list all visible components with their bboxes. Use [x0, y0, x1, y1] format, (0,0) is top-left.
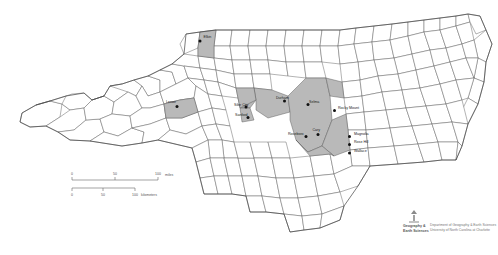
- map-container: ElkinLenoirSiler CitySanfordDurhamSelmaR…: [0, 0, 498, 255]
- city-dot-icon: [176, 105, 179, 108]
- north-carolina-county-map: ElkinLenoirSiler CitySanfordDurhamSelmaR…: [0, 0, 498, 255]
- county-polygon: [284, 46, 304, 62]
- county-polygon: [268, 142, 290, 158]
- county-polygon: [266, 30, 286, 46]
- county-polygon: [320, 30, 340, 46]
- county-polygon: [208, 140, 224, 158]
- county-polygon: [346, 112, 366, 130]
- county-polygon: [248, 46, 268, 60]
- county-polygon: [340, 62, 360, 82]
- city-label: Cary: [313, 128, 321, 132]
- city-dot-icon: [199, 40, 202, 43]
- county-polygon: [284, 30, 304, 46]
- scale-label-km-100: 100: [132, 193, 138, 197]
- city-dot-icon: [348, 143, 351, 146]
- scale-label-km-0: 0: [71, 193, 73, 197]
- county-polygon: [354, 26, 374, 44]
- scale-unit-kilometers: kilometers: [141, 193, 157, 197]
- county-polygon: [234, 74, 254, 88]
- city-label: Rocky Mount: [338, 106, 359, 110]
- county-polygon: [266, 46, 286, 62]
- county-polygon: [342, 80, 362, 98]
- county-polygon: [378, 74, 402, 92]
- university-logo-icon: [409, 210, 419, 223]
- county-polygon: [290, 156, 314, 178]
- credit-line-2: University of North Carolina at Charlott…: [430, 228, 490, 232]
- county-polygon: [302, 30, 322, 46]
- city-label: Roseboro: [288, 132, 304, 136]
- county-polygon: [230, 46, 250, 60]
- scale-label-km-50: 50: [101, 193, 105, 197]
- county-polygon: [338, 28, 356, 46]
- logo-line-2: Earth Sciences: [403, 229, 429, 233]
- county-polygon: [180, 32, 200, 54]
- county-polygon: [252, 74, 272, 90]
- county-polygon: [250, 60, 270, 74]
- county-polygon: [424, 18, 440, 32]
- county-polygon: [298, 196, 322, 216]
- county-polygon: [372, 24, 392, 42]
- city-label: Sanford: [235, 113, 248, 117]
- city-label: Elkin: [204, 35, 212, 39]
- city-label: Magnolia: [354, 132, 369, 136]
- county-polygon: [232, 60, 252, 74]
- city-dot-icon: [348, 152, 351, 155]
- county-polygon: [302, 46, 322, 62]
- scale-unit-miles: miles: [165, 173, 173, 177]
- highlighted-county-durham[interactable]: [254, 88, 290, 118]
- county-polygon: [214, 30, 232, 46]
- county-polygon: [304, 62, 326, 78]
- city-label: Durham: [276, 96, 289, 100]
- city-label: Lenoir: [166, 100, 177, 104]
- county-polygon: [268, 60, 288, 76]
- credit-line-1: Department of Geography & Earth Sciences: [430, 223, 496, 227]
- city-label: Wallace: [354, 149, 367, 153]
- county-polygon: [230, 30, 250, 46]
- county-polygon: [364, 110, 390, 130]
- scale-label-miles-100: 100: [155, 172, 161, 176]
- county-polygon: [366, 128, 394, 148]
- city-dot-icon: [348, 135, 351, 138]
- city-label: Rose Hill: [354, 140, 369, 144]
- credit-block: Geography & Earth Sciences Department of…: [403, 210, 496, 233]
- city-dot-icon: [317, 133, 320, 136]
- county-polygon: [248, 30, 268, 46]
- county-polygon: [382, 90, 406, 110]
- city-dot-icon: [333, 109, 336, 112]
- scale-label-miles-50: 50: [113, 172, 117, 176]
- county-polygon: [368, 146, 398, 166]
- county-polygon: [320, 46, 340, 64]
- county-polygon: [214, 46, 232, 60]
- county-polygon: [302, 214, 322, 230]
- scale-label-miles-0: 0: [71, 172, 73, 176]
- city-label: Selma: [309, 100, 319, 104]
- city-label: Siler City: [234, 103, 249, 107]
- logo-line-1: Geography &: [403, 224, 426, 228]
- county-polygon: [294, 176, 318, 198]
- county-polygon: [344, 96, 364, 114]
- city-dot-icon: [305, 135, 308, 138]
- county-polygon: [374, 58, 398, 76]
- county-polygon: [286, 62, 306, 78]
- county-layer: [20, 14, 492, 232]
- scale-bar-group: 0 50 100 miles 0 50 100 kilometers: [71, 172, 173, 197]
- county-polygon: [310, 154, 334, 176]
